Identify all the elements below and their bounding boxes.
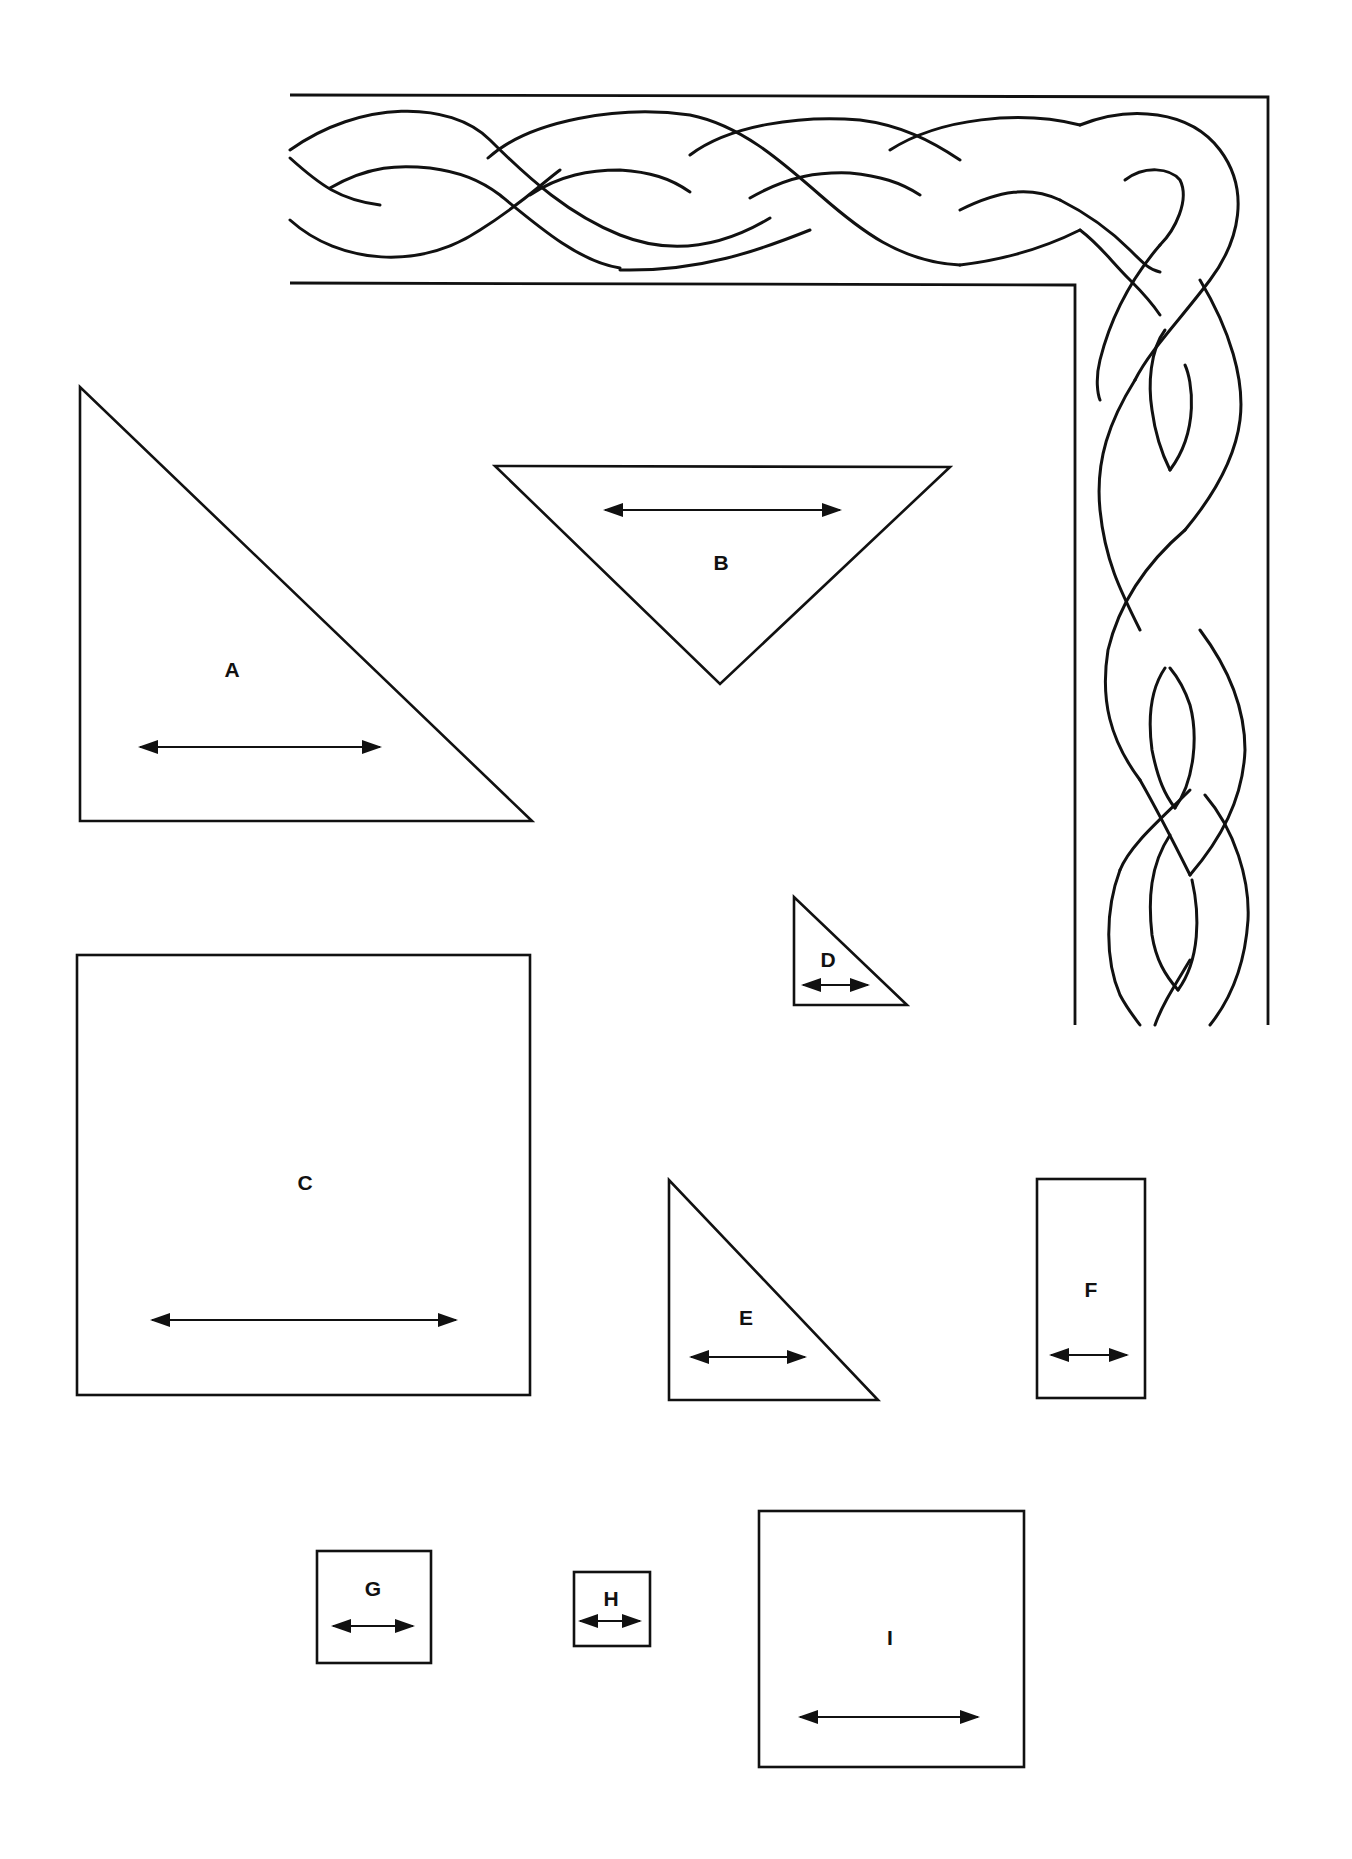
piece-f: F (1037, 1179, 1145, 1398)
piece-a-label: A (224, 658, 239, 681)
piece-e-label: E (739, 1306, 753, 1329)
piece-b-outline (495, 466, 950, 684)
piece-c: C (77, 955, 530, 1395)
pattern-sheet: A B D C E F G H (0, 0, 1352, 1859)
piece-b-label: B (713, 551, 728, 574)
piece-a: A (80, 387, 532, 821)
piece-f-label: F (1085, 1278, 1098, 1301)
piece-e-outline (669, 1180, 878, 1400)
braid-horizontal (290, 111, 1080, 270)
piece-d-outline (794, 897, 907, 1005)
piece-d: D (794, 897, 907, 1005)
braid-corner (1060, 114, 1238, 400)
piece-i-label: I (887, 1626, 893, 1649)
piece-g-outline (317, 1551, 431, 1663)
piece-b: B (495, 466, 950, 684)
piece-g: G (317, 1551, 431, 1663)
piece-i: I (759, 1511, 1024, 1767)
braid-vertical (1099, 280, 1248, 1025)
piece-e: E (669, 1180, 878, 1400)
piece-c-label: C (297, 1171, 312, 1194)
piece-a-outline (80, 387, 532, 821)
piece-g-label: G (365, 1577, 381, 1600)
piece-h-label: H (603, 1587, 618, 1610)
piece-d-label: D (820, 948, 835, 971)
piece-h: H (574, 1572, 650, 1646)
